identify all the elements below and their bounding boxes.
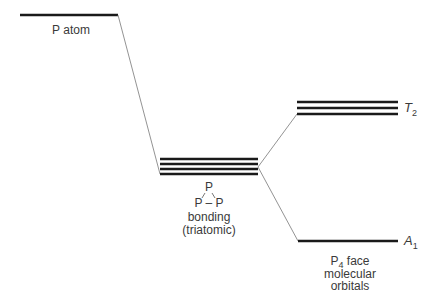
t2-levels [297, 102, 398, 114]
energy-diagram [0, 0, 423, 291]
connector-patom-bonding [118, 15, 160, 174]
bonding-structure-top: P [199, 181, 219, 194]
p-atom-label: P atom [46, 24, 96, 37]
bonding-structure-bottom: P – P [184, 197, 234, 210]
connector-bonding-t2 [258, 114, 297, 167]
a1-symbol: A1 [404, 233, 418, 251]
bonding-sublabel: (triatomic) [169, 224, 249, 237]
bonding-levels [160, 159, 258, 174]
p4-orbitals-label: orbitals [305, 280, 395, 291]
connector-bonding-a1 [258, 167, 298, 241]
t2-symbol: T2 [404, 100, 417, 118]
